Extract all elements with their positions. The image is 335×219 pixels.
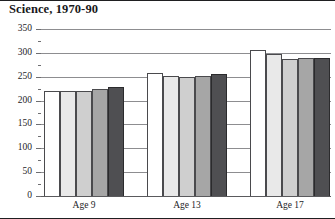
bar-age-17-1980 bbox=[282, 59, 298, 196]
bar-age-17-1975 bbox=[266, 54, 282, 196]
y-axis-label-50: 50 bbox=[2, 167, 32, 177]
bottom-rule bbox=[0, 218, 335, 219]
y-axis-label-300: 300 bbox=[2, 48, 32, 58]
x-axis-group-label-age-13: Age 13 bbox=[147, 200, 227, 210]
y-axis-label-0: 0 bbox=[2, 191, 32, 201]
y-minor-tick bbox=[38, 160, 41, 161]
bar-age-13-1970 bbox=[147, 73, 163, 196]
y-minor-tick bbox=[38, 113, 41, 114]
y-tick-mark-50 bbox=[36, 172, 41, 173]
y-axis-label-250: 250 bbox=[2, 72, 32, 82]
x-axis-group-label-age-9: Age 9 bbox=[44, 200, 124, 210]
y-minor-tick bbox=[38, 184, 41, 185]
bar-age-9-1990 bbox=[108, 87, 124, 196]
y-tick-mark-150 bbox=[36, 124, 41, 125]
x-axis-group-label-age-17: Age 17 bbox=[250, 200, 330, 210]
y-axis-label-200: 200 bbox=[2, 96, 32, 106]
bar-age-9-1980 bbox=[76, 91, 92, 196]
gridline-350 bbox=[41, 29, 331, 30]
bar-age-13-1990 bbox=[211, 74, 227, 196]
y-axis-label-150: 150 bbox=[2, 119, 32, 129]
gridline-0 bbox=[41, 196, 331, 197]
bar-age-17-1990 bbox=[314, 58, 330, 196]
bar-age-13-1980 bbox=[179, 77, 195, 196]
bar-age-17-1985 bbox=[298, 58, 314, 196]
science-bar-chart: Science, 1970-90 050100150200250300350Ag… bbox=[0, 0, 335, 219]
y-tick-mark-250 bbox=[36, 77, 41, 78]
y-tick-mark-100 bbox=[36, 148, 41, 149]
bar-age-13-1975 bbox=[163, 76, 179, 196]
y-axis-label-100: 100 bbox=[2, 143, 32, 153]
y-minor-tick bbox=[38, 41, 41, 42]
y-tick-mark-350 bbox=[36, 29, 41, 30]
gridline-300 bbox=[41, 53, 331, 54]
y-tick-mark-300 bbox=[36, 53, 41, 54]
bar-age-9-1975 bbox=[60, 91, 76, 196]
y-axis-label-350: 350 bbox=[2, 24, 32, 34]
bar-age-17-1970 bbox=[250, 50, 266, 196]
bar-age-13-1985 bbox=[195, 76, 211, 196]
y-minor-tick bbox=[38, 65, 41, 66]
y-minor-tick bbox=[38, 136, 41, 137]
plot-area: 050100150200250300350Age 9Age 13Age 17 bbox=[0, 0, 335, 219]
bar-age-9-1970 bbox=[44, 91, 60, 196]
y-tick-mark-200 bbox=[36, 101, 41, 102]
bar-age-9-1985 bbox=[92, 89, 108, 196]
y-tick-mark-0 bbox=[36, 196, 41, 197]
y-minor-tick bbox=[38, 89, 41, 90]
